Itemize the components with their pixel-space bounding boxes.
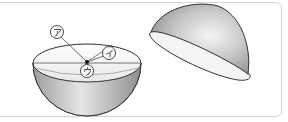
lid-hemisphere bbox=[150, 4, 251, 80]
svg-text:ウ: ウ bbox=[83, 67, 92, 77]
svg-text:イ: イ bbox=[105, 49, 114, 59]
hemisphere-diagram: ア イ ウ bbox=[0, 0, 288, 122]
center-point bbox=[85, 60, 89, 64]
label-a: ア bbox=[51, 26, 64, 39]
label-i: イ bbox=[103, 47, 116, 60]
svg-text:ア: ア bbox=[53, 28, 62, 38]
label-u: ウ bbox=[81, 65, 94, 78]
